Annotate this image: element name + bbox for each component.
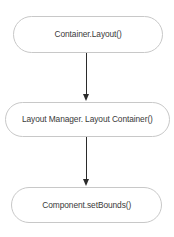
flowchart-diagram: Container.Layout() Layout Manager. Layou… (0, 0, 174, 237)
flow-node-component-setbounds[interactable]: Component.setBounds() (11, 187, 162, 223)
arrow-line (86, 53, 87, 94)
flow-node-layout-manager-layout-container[interactable]: Layout Manager. Layout Container() (5, 102, 170, 137)
flow-node-label: Component.setBounds() (42, 201, 131, 210)
arrow-line (86, 137, 87, 179)
flow-node-label: Container.Layout() (54, 30, 121, 39)
flow-node-label: Layout Manager. Layout Container() (22, 115, 153, 124)
arrow-head-icon (83, 94, 89, 101)
arrow-head-icon (83, 179, 89, 186)
flow-node-container-layout[interactable]: Container.Layout() (13, 16, 163, 53)
